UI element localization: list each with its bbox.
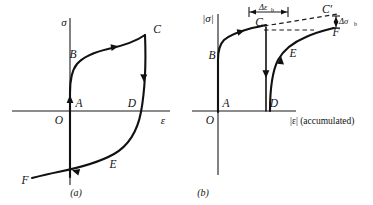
panel-b-label-O: O [206, 114, 215, 126]
panel-b-delta-stress-arrow-up [334, 17, 339, 22]
panel-b-label-C-prime: C′ [322, 3, 333, 15]
panel-b-label-E: E [288, 47, 296, 59]
figure-root: σ ε O A B C D E F (a) [0, 0, 373, 205]
panel-b-dashed-C-to-Cprime [264, 14, 338, 26]
panel-a-caption: (a) [70, 187, 82, 199]
panel-a-label-C: C [153, 23, 161, 35]
panel-b-curve-DEF [270, 28, 334, 111]
panel-b-arrow-down-CD [262, 70, 269, 78]
panel-b-y-axis-label: |σ| [202, 12, 213, 24]
panel-b-label-F: F [331, 26, 340, 38]
panel-a: σ ε O A B C D E F (a) [0, 0, 186, 205]
panel-a-arrow-left-unloading [72, 169, 80, 175]
panel-a-svg: σ ε O A B C D E F (a) [0, 0, 186, 205]
panel-b: Δε b Δσ b |σ| |ε| (accumulated) O A B C … [186, 0, 373, 205]
panel-a-label-E: E [108, 158, 116, 170]
panel-b-delta-strain-label-group: Δε b [258, 2, 274, 13]
panel-a-y-axis-label: σ [61, 16, 67, 28]
panel-a-label-O: O [55, 114, 64, 126]
panel-a-x-axis-label: ε [161, 114, 166, 126]
panel-b-svg: Δε b Δσ b |σ| |ε| (accumulated) O A B C … [186, 0, 373, 205]
panel-a-label-D: D [127, 97, 137, 109]
panel-b-label-D: D [269, 97, 279, 109]
panel-a-label-A: A [74, 97, 83, 109]
panel-b-label-C: C [255, 16, 263, 28]
panel-b-delta-strain-arrow-right [281, 9, 287, 14]
panel-a-arrow-down-unloading [140, 74, 147, 82]
panel-b-delta-stress-label: Δσ [338, 16, 349, 26]
panel-b-label-A: A [221, 97, 230, 109]
panel-a-label-F: F [20, 174, 29, 186]
panel-b-delta-stress-label-group: Δσ b [338, 16, 357, 27]
panel-a-arrow-up-loading [67, 95, 74, 103]
panel-b-delta-strain-subscript: b [271, 7, 274, 13]
panel-a-label-B: B [69, 48, 76, 60]
panel-b-delta-strain-label: Δε [258, 2, 268, 12]
panel-b-caption: (b) [197, 187, 209, 199]
panel-b-delta-stress-subscript: b [354, 21, 357, 27]
panel-b-label-B: B [208, 49, 215, 61]
panel-b-x-axis-label: |ε| (accumulated) [290, 116, 355, 127]
panel-b-delta-strain-arrow-left [250, 9, 256, 14]
